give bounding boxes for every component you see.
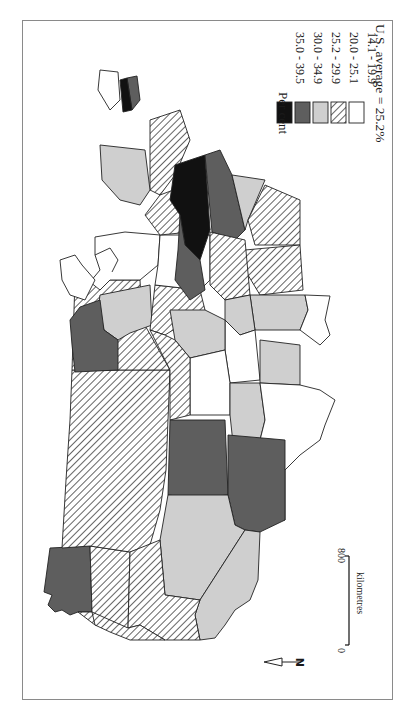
scale-unit-label: kilometres bbox=[355, 572, 366, 614]
legend-swatch-white bbox=[349, 102, 364, 123]
scale-min-label: 0 bbox=[336, 648, 347, 653]
north-label: N bbox=[294, 658, 307, 667]
us-average-label: U.S. average = 25.2% bbox=[372, 24, 388, 143]
state-louisiana bbox=[260, 340, 300, 385]
state-georgia bbox=[250, 295, 308, 330]
legend-swatch-light bbox=[313, 102, 328, 123]
legend-label-4: 20.0 - 25.1 bbox=[346, 32, 361, 84]
legend-label-1: 35.0 - 39.5 bbox=[292, 32, 307, 84]
state-alabama bbox=[210, 232, 250, 300]
legend-swatch-dark bbox=[295, 102, 310, 123]
scale-max-label: 800 bbox=[336, 548, 347, 563]
state-new-mexico bbox=[228, 435, 285, 532]
legend-swatch-hatched bbox=[331, 102, 346, 123]
state-maine bbox=[100, 145, 150, 205]
state-washington bbox=[44, 546, 92, 615]
us-choropleth-map bbox=[0, 0, 411, 717]
state-colorado bbox=[168, 420, 228, 498]
state-massachusetts bbox=[98, 70, 120, 110]
legend-label-2: 30.0 - 34.9 bbox=[310, 32, 325, 84]
scale-bar bbox=[345, 556, 349, 645]
state-montana bbox=[62, 370, 170, 552]
state-kansas bbox=[190, 350, 230, 415]
legend-label-3: 25.2 - 29.9 bbox=[328, 32, 343, 84]
state-south-carolina bbox=[245, 245, 303, 295]
legend-title: Per cent bbox=[275, 92, 291, 134]
